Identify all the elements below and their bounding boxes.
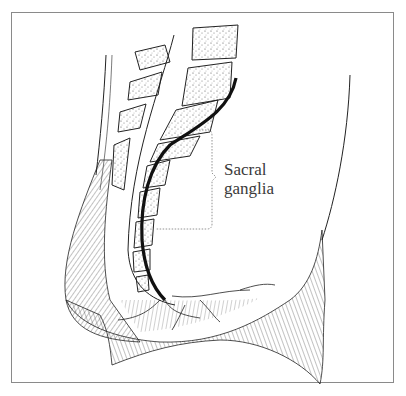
- posterior-contour: [322, 75, 350, 240]
- spine: [112, 25, 238, 305]
- label-line-1: Sacral: [224, 160, 274, 179]
- pelvis-illustration: [0, 0, 406, 396]
- sacral-ganglia-label: Sacral ganglia: [224, 160, 274, 198]
- label-line-2: ganglia: [224, 179, 274, 198]
